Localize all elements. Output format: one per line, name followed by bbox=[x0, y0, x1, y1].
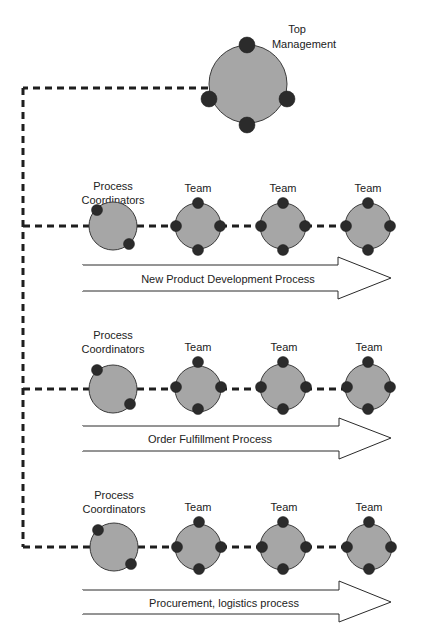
member-dot bbox=[193, 404, 204, 415]
diagram-canvas: Top Management Process Coordinators Team… bbox=[0, 0, 423, 630]
member-dot bbox=[364, 564, 375, 575]
member-dot bbox=[386, 542, 397, 553]
member-dot bbox=[278, 357, 289, 368]
member-dot bbox=[239, 117, 255, 133]
member-dot bbox=[385, 382, 396, 393]
team-circle bbox=[346, 524, 392, 570]
org-diagram: Top Management Process Coordinators Team… bbox=[0, 0, 423, 630]
team-label: Team bbox=[356, 341, 383, 353]
team-label: Team bbox=[271, 501, 298, 513]
team-label: Team bbox=[355, 182, 382, 194]
member-dot bbox=[201, 91, 217, 107]
coordinator-label-1: Process bbox=[93, 329, 133, 341]
member-dot bbox=[193, 357, 204, 368]
process-arrow-label: Order Fulfillment Process bbox=[148, 433, 273, 445]
member-dot bbox=[278, 517, 289, 528]
connector-lines bbox=[23, 88, 346, 547]
member-dot bbox=[216, 542, 227, 553]
member-dot bbox=[363, 404, 374, 415]
member-dot bbox=[92, 365, 103, 376]
member-dot bbox=[363, 357, 374, 368]
member-dot bbox=[126, 559, 137, 570]
member-dot bbox=[193, 245, 204, 256]
member-dot bbox=[194, 564, 205, 575]
member-dot bbox=[92, 205, 103, 216]
coordinator-label-2: Coordinators bbox=[83, 503, 146, 515]
team-label: Team bbox=[271, 341, 298, 353]
member-dot bbox=[215, 221, 226, 232]
process-arrow-label: Procurement, logistics process bbox=[149, 597, 299, 609]
member-dot bbox=[256, 382, 267, 393]
member-dot bbox=[341, 221, 352, 232]
member-dot bbox=[194, 517, 205, 528]
member-dot bbox=[278, 404, 289, 415]
member-dot bbox=[301, 542, 312, 553]
team-label: Team bbox=[185, 341, 212, 353]
member-dot bbox=[256, 221, 267, 232]
process-row-2: Process Coordinators Team Team Team Orde… bbox=[82, 329, 396, 459]
team-circle bbox=[260, 364, 306, 410]
member-dot bbox=[364, 517, 375, 528]
team-circle bbox=[345, 203, 391, 249]
member-dot bbox=[363, 245, 374, 256]
member-dot bbox=[300, 221, 311, 232]
member-dot bbox=[172, 542, 183, 553]
member-dot bbox=[257, 542, 268, 553]
coordinator-label-1: Process bbox=[93, 180, 133, 192]
member-dot bbox=[239, 37, 255, 53]
top-management-circle bbox=[209, 45, 287, 123]
member-dot bbox=[193, 198, 204, 209]
member-dot bbox=[171, 221, 182, 232]
member-dot bbox=[125, 399, 136, 410]
member-dot bbox=[278, 198, 289, 209]
member-dot bbox=[124, 239, 135, 250]
team-circle bbox=[260, 203, 306, 249]
team-circle bbox=[175, 203, 221, 249]
member-dot bbox=[93, 525, 104, 536]
member-dot bbox=[216, 382, 227, 393]
team-label: Team bbox=[270, 182, 297, 194]
member-dot bbox=[278, 564, 289, 575]
member-dot bbox=[385, 221, 396, 232]
member-dot bbox=[342, 382, 353, 393]
process-row-3: Process Coordinators Team Team Team Proc… bbox=[82, 489, 397, 622]
team-label: Team bbox=[356, 501, 383, 513]
process-row-1: Process Coordinators Team Team Team New … bbox=[82, 180, 396, 299]
coordinator-label-1: Process bbox=[94, 489, 134, 501]
member-dot bbox=[171, 382, 182, 393]
coordinator-label-2: Coordinators bbox=[82, 343, 145, 355]
team-label: Team bbox=[185, 182, 212, 194]
top-management-label-2: Management bbox=[272, 38, 336, 50]
member-dot bbox=[342, 542, 353, 553]
process-arrow-label: New Product Development Process bbox=[141, 273, 315, 285]
top-management-label-1: Top bbox=[288, 23, 306, 35]
team-label: Team bbox=[185, 501, 212, 513]
member-dot bbox=[279, 91, 295, 107]
member-dot bbox=[363, 198, 374, 209]
member-dot bbox=[301, 382, 312, 393]
top-management-node: Top Management bbox=[201, 23, 336, 133]
member-dot bbox=[278, 245, 289, 256]
